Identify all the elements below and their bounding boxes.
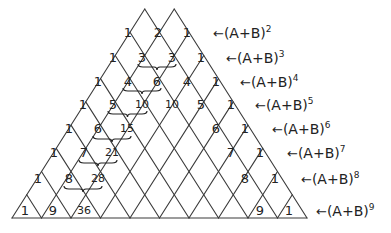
arrow-left-icon: ←: [255, 98, 266, 113]
coefficient: 2: [154, 26, 162, 39]
coefficient: 1: [94, 75, 102, 88]
sum-brace: [123, 88, 161, 94]
exponent: 5: [308, 96, 314, 106]
coefficient: 1: [183, 26, 191, 39]
coefficient: 7: [80, 146, 88, 159]
binomial-text: (A+B): [224, 25, 266, 41]
coefficient: 15: [120, 123, 134, 134]
sum-brace: [138, 64, 176, 70]
coefficient: 1: [227, 98, 235, 111]
coefficient: 9: [49, 204, 57, 217]
coefficient: 1: [34, 172, 42, 185]
coefficient: 10: [165, 99, 179, 110]
lattice-line: [42, 9, 175, 218]
coefficient: 1: [212, 75, 220, 88]
coefficient: 8: [241, 172, 249, 185]
expansion-label: ←(A+B)8: [301, 171, 359, 186]
coefficient: 1: [241, 122, 249, 135]
binomial-text: (A+B): [312, 171, 354, 187]
expansion-label: ←(A+B)3: [226, 50, 284, 65]
expansion-label: ←(A+B)9: [316, 203, 374, 218]
coefficient: 1: [285, 204, 293, 217]
coefficient: 6: [153, 75, 161, 88]
binomial-text: (A+B): [237, 50, 279, 66]
lattice-line: [160, 102, 234, 218]
expansion-label: ←(A+B)2: [213, 25, 271, 40]
coefficient: 8: [65, 172, 73, 185]
arrow-left-icon: ←: [272, 122, 283, 137]
expansion-label: ←(A+B)7: [287, 145, 345, 160]
coefficient: 1: [271, 172, 279, 185]
exponent: 9: [369, 202, 375, 212]
binomial-text: (A+B): [266, 97, 308, 113]
exponent: 8: [354, 170, 360, 180]
coefficient: 9: [256, 204, 264, 217]
coefficient: 3: [138, 51, 146, 64]
expansion-label: ←(A+B)6: [272, 121, 330, 136]
coefficient: 1: [21, 204, 29, 217]
exponent: 3: [279, 49, 285, 59]
expansion-label: ←(A+B)5: [255, 97, 313, 112]
coefficient: 36: [77, 205, 91, 216]
coefficient: 28: [91, 173, 105, 184]
exponent: 4: [293, 73, 299, 83]
arrow-left-icon: ←: [226, 51, 237, 66]
coefficient: 6: [212, 122, 220, 135]
arrow-left-icon: ←: [301, 172, 312, 187]
coefficient: 1: [197, 51, 205, 64]
arrow-left-icon: ←: [213, 26, 224, 41]
binomial-text: (A+B): [251, 74, 293, 90]
sum-brace: [64, 186, 102, 192]
exponent: 2: [266, 24, 272, 34]
diamond-lattice: [0, 0, 391, 233]
coefficient: 1: [65, 122, 73, 135]
coefficient: 1: [109, 51, 117, 64]
coefficient: 21: [105, 147, 119, 158]
sum-brace: [93, 136, 131, 142]
binomial-text: (A+B): [327, 203, 369, 219]
sum-brace: [108, 111, 147, 117]
coefficient: 10: [135, 99, 149, 110]
binomial-text: (A+B): [298, 145, 340, 161]
exponent: 6: [325, 120, 331, 130]
coefficient: 5: [197, 98, 205, 111]
coefficient: 5: [109, 98, 117, 111]
coefficient: 1: [256, 146, 264, 159]
coefficient: 1: [50, 146, 58, 159]
coefficient: 7: [227, 146, 235, 159]
coefficient: 4: [183, 75, 191, 88]
coefficient: 1: [79, 98, 87, 111]
arrow-left-icon: ←: [287, 146, 298, 161]
arrow-left-icon: ←: [240, 75, 251, 90]
coefficient: 1: [124, 26, 132, 39]
binomial-text: (A+B): [283, 121, 325, 137]
lattice-line: [86, 102, 160, 218]
coefficient: 4: [124, 75, 132, 88]
exponent: 7: [340, 144, 346, 154]
coefficient: 3: [168, 51, 176, 64]
coefficient: 6: [94, 122, 102, 135]
sum-brace: [79, 160, 117, 166]
expansion-label: ←(A+B)4: [240, 74, 298, 89]
pascal-triangle-diagram: 1211331146411510105116156117217118288119…: [0, 0, 391, 233]
arrow-left-icon: ←: [316, 204, 327, 219]
